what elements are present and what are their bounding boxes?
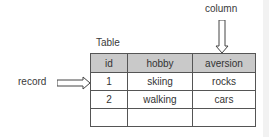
cell: rocks [193, 73, 256, 91]
table-row-empty [91, 109, 256, 127]
header-id: id [91, 54, 128, 73]
cell [91, 109, 128, 127]
table-row: 2 walking cars [91, 91, 256, 109]
record-label: record [18, 76, 46, 87]
cell: cars [193, 91, 256, 109]
column-arrow-icon [215, 20, 229, 54]
data-table: id hobby aversion 1 skiing rocks 2 walki… [90, 53, 256, 127]
cell: walking [128, 91, 193, 109]
cell: 1 [91, 73, 128, 91]
cell: skiing [128, 73, 193, 91]
table-title: Table [96, 37, 120, 48]
header-aversion: aversion [193, 54, 256, 73]
table-header-row: id hobby aversion [91, 54, 256, 73]
header-hobby: hobby [128, 54, 193, 73]
cell [128, 109, 193, 127]
cell: 2 [91, 91, 128, 109]
record-arrow-icon [57, 76, 91, 90]
column-label: column [205, 3, 237, 14]
page-edge-shadow [263, 0, 269, 137]
table-row: 1 skiing rocks [91, 73, 256, 91]
cell [193, 109, 256, 127]
